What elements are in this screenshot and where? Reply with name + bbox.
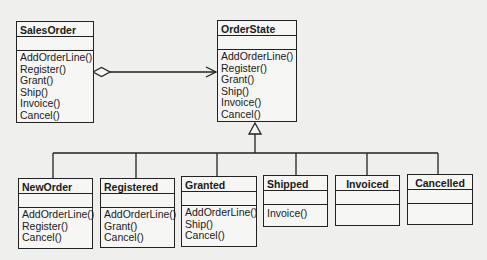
operation: Cancel(): [185, 230, 253, 242]
operation: AddOrderLine(): [22, 209, 89, 221]
class-name: Granted: [182, 177, 256, 192]
class-name: NewOrder: [19, 179, 92, 194]
class-cancelled: Cancelled: [407, 174, 473, 225]
operation: AddOrderLine(): [221, 51, 293, 63]
operation: Cancel(): [22, 232, 89, 244]
operation: Cancel(): [221, 109, 293, 121]
operation: Invoice(): [267, 208, 324, 220]
class-orderstate: OrderState AddOrderLine() Register() Gra…: [217, 20, 297, 122]
attributes-compartment: [17, 37, 93, 51]
operation: AddOrderLine(): [104, 209, 171, 221]
attributes-compartment: [182, 192, 256, 206]
attributes-compartment: [336, 191, 399, 205]
class-name: Registered: [101, 179, 174, 194]
class-name: OrderState: [218, 21, 296, 36]
operation: Invoice(): [20, 98, 90, 110]
operations-compartment: AddOrderLine() Grant() Cancel(): [101, 208, 174, 245]
inheritance-triangle-icon: [249, 123, 261, 134]
operation: Grant(): [20, 75, 90, 87]
operations-compartment: [336, 205, 399, 207]
class-invoiced: Invoiced: [335, 175, 400, 226]
class-name: SalesOrder: [17, 22, 93, 37]
operation: AddOrderLine(): [20, 52, 90, 64]
class-name: Cancelled: [408, 175, 472, 190]
class-name: Shipped: [264, 176, 327, 191]
operation: Cancel(): [104, 232, 171, 244]
operations-compartment: AddOrderLine() Register() Grant() Ship()…: [218, 50, 296, 121]
operations-compartment: Invoice(): [264, 205, 327, 221]
class-name: Invoiced: [336, 176, 399, 191]
aggregation-connector: [93, 67, 216, 77]
attributes-compartment: [218, 36, 296, 50]
operations-compartment: AddOrderLine() Ship() Cancel(): [182, 206, 256, 243]
attributes-compartment: [19, 194, 92, 208]
operation: Invoice(): [221, 97, 293, 109]
generalization-connector: [53, 123, 438, 178]
attributes-compartment: [101, 194, 174, 208]
class-registered: Registered AddOrderLine() Grant() Cancel…: [100, 178, 175, 248]
operation: AddOrderLine(): [185, 207, 253, 219]
class-neworder: NewOrder AddOrderLine() Register() Cance…: [18, 178, 93, 249]
operation: Grant(): [221, 74, 293, 86]
class-granted: Granted AddOrderLine() Ship() Cancel(): [181, 176, 257, 247]
operations-compartment: AddOrderLine() Register() Cancel(): [19, 208, 92, 245]
class-shipped: Shipped Invoice(): [263, 175, 328, 227]
attributes-compartment: [408, 190, 472, 204]
aggregation-diamond-icon: [93, 68, 110, 77]
operations-compartment: [408, 204, 472, 206]
operation: Cancel(): [20, 110, 90, 122]
operations-compartment: AddOrderLine() Register() Grant() Ship()…: [17, 51, 93, 122]
attributes-compartment: [264, 191, 327, 205]
class-salesorder: SalesOrder AddOrderLine() Register() Gra…: [16, 21, 94, 123]
